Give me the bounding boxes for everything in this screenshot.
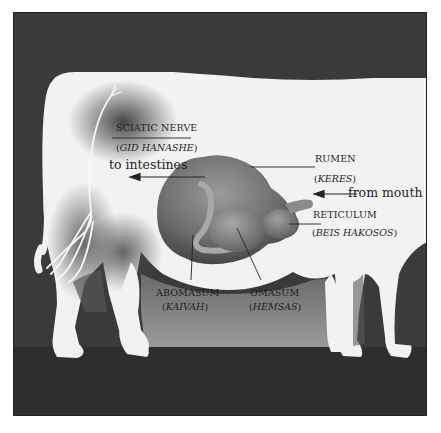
hemsas-text: HEMSAS [253,301,298,312]
rumen-hebrew-label: (KERES) [314,174,356,184]
to-intestines-label: to intestines [109,159,187,172]
abomasum-label: ABOMASUM [156,288,219,298]
keres-text: KERES [318,173,353,184]
reticulum-label: RETICULUM [313,210,377,220]
sciatic-nerve-label: SCIATIC NERVE [116,123,197,133]
omasum-label: OMASUM [250,288,299,298]
omasum-hebrew-label: (HEMSAS) [249,302,301,312]
diagram-figure: SCIATIC NERVE (GID HANASHE) RUMEN (KERES… [13,12,427,416]
kaivah-text: KAIVAH [166,301,205,312]
omasum-shape [209,208,265,252]
reticulum-hebrew-label: (BEIS HAKOSOS) [312,228,397,238]
beis-hakosos-text: BEIS HAKOSOS [316,227,394,238]
rumen-label: RUMEN [315,154,356,164]
gid-hanashe-text: GID HANASHE [120,142,194,153]
from-mouth-label: from mouth [348,187,422,200]
abomasum-hebrew-label: (KAIVAH) [162,302,208,312]
sciatic-nerve-hebrew-label: (GID HANASHE) [116,143,197,153]
